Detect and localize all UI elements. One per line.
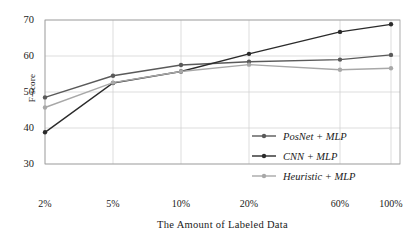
x-axis-tick-2: 10% [161,198,201,209]
x-axis-tick-5: 100% [371,198,411,209]
y-axis-tick-40: 40 [4,122,34,133]
data-point [338,67,342,71]
data-point [338,57,342,61]
legend-label: PosNet + MLP [282,131,347,142]
series-layer [43,22,393,134]
data-point [179,69,183,73]
y-axis-tick-50: 50 [4,86,34,97]
data-point [389,53,393,57]
gridlines [45,20,400,164]
data-point [111,80,115,84]
x-axis-title: The Amount of Labeled Data [35,219,410,230]
legend-marker [262,174,266,178]
data-point [247,62,251,66]
series-line [45,24,391,132]
data-point [338,30,342,34]
data-point [179,63,183,67]
data-point [247,52,251,56]
data-point [43,130,47,134]
series-cnn-mlp [43,22,393,134]
data-point [111,74,115,78]
legend-label: CNN + MLP [283,151,338,162]
data-point [389,66,393,70]
x-axis-tick-3: 20% [229,198,269,209]
x-axis-tick-0: 2% [25,198,65,209]
series-posnet-mlp [43,53,393,100]
line-chart: F-score 70 60 50 40 30 2% 5% 10% 20% 60%… [0,0,414,240]
y-axis-tick-70: 70 [4,14,34,25]
data-point [389,22,393,26]
y-axis-tick-30: 30 [4,158,34,169]
x-axis-tick-1: 5% [93,198,133,209]
y-axis-tick-60: 60 [4,50,34,61]
legend-marker [262,154,266,158]
data-point [43,95,47,99]
chart-legend: PosNet + MLPCNN + MLPHeuristic + MLP [252,131,356,182]
x-axis-tick-4: 60% [320,198,360,209]
data-point [43,105,47,109]
series-heuristic-mlp [43,62,393,109]
legend-label: Heuristic + MLP [282,171,356,182]
legend-marker [262,134,266,138]
